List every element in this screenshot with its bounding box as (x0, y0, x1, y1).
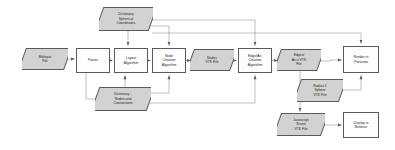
node-label: Edges/ Arcs VTK File (278, 53, 320, 66)
node-node-creation-algorithm[interactable]: Node Creation Algorithm (152, 48, 186, 73)
node-edge-arc-creation-algorithm[interactable]: Edge/Arc Creation Algorithm (238, 48, 272, 73)
edge-dictspher-to-render (152, 33, 361, 44)
flowchart-canvas: BibInput File Parser Layout Algorithm Di… (0, 0, 395, 150)
node-label: Javascript Scene VTK File (278, 118, 324, 131)
edge-dictnodes-to-edgealg (148, 75, 255, 103)
node-display-in-browser[interactable]: Display in Browser (343, 112, 379, 138)
node-label: Radius 1 Sphere VTK File (298, 84, 342, 97)
node-label: Dictionary Spherical Coordinates (100, 12, 152, 25)
node-label: Edge/Arc Creation Algorithm (240, 54, 270, 67)
node-render-in-paraview[interactable]: Render in Paraview (343, 46, 379, 73)
node-layout-algorithm[interactable]: Layout Algorithm (114, 48, 148, 73)
node-label: Parser (78, 58, 108, 62)
node-label: BibInput File (23, 55, 67, 64)
node-label: Dictionary - Nodes and Connections (96, 92, 150, 105)
node-parser[interactable]: Parser (76, 48, 110, 73)
node-dictionary-spherical-coordinates[interactable]: Dictionary Spherical Coordinates (99, 7, 153, 31)
node-javascript-scene-vtk-file[interactable]: Javascript Scene VTK File (277, 113, 325, 136)
node-label: Nodes VTK File (191, 56, 233, 65)
node-label: Display in Browser (345, 121, 377, 130)
connector-layer (0, 0, 395, 150)
node-nodes-vtk-file[interactable]: Nodes VTK File (190, 49, 234, 71)
node-label: Render in Paraview (345, 55, 377, 64)
node-bib-input-file[interactable]: BibInput File (22, 48, 68, 70)
node-edges-arcs-vtk-file[interactable]: Edges/ Arcs VTK File (277, 49, 321, 71)
node-radius-1-sphere-vtk-file[interactable]: Radius 1 Sphere VTK File (297, 79, 343, 102)
node-dictionary-nodes-and-connections[interactable]: Dictionary - Nodes and Connections (95, 87, 151, 111)
node-label: Layout Algorithm (116, 56, 146, 65)
node-label: Node Creation Algorithm (154, 54, 184, 67)
